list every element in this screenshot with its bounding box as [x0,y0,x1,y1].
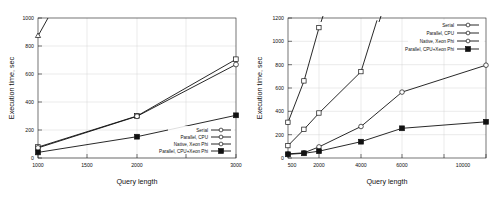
legend-marker-parallel-cpu-xeon-phi [466,47,471,52]
left-series-serial [35,18,48,38]
y-tick-label: 0 [281,155,284,161]
right-series-parallel-cpu [286,16,381,148]
right-y-tick-labels: 0 200 400 600 800 1000 1200 [272,15,284,161]
x-tick-label: 4000 [355,162,367,168]
legend-marker-parallel-cpu [466,31,470,35]
y-tick-label: 1000 [272,38,284,44]
y-axis-title: Execution time, sec [255,56,264,119]
legend-label-parallel-cpu: Parallel, CPU [426,31,454,36]
legend-label-native-xeon-phi: Native, Xeon Phi [174,142,208,147]
x-tick-label: 2000 [313,162,325,168]
y-tick-label: 200 [275,132,284,138]
legend-label-native-xeon-phi: Native, Xeon Phi [420,39,454,44]
x-tick-label: 3000 [230,162,242,168]
right-series-serial [286,16,323,125]
x-axis-title: Query length [366,177,407,186]
right-series-native-xeon-phi [286,63,489,156]
right-legend: Serial Parallel, CPU Native, Xeon Phi Pa… [405,20,484,52]
y-tick-label: 200 [25,127,34,133]
x-tick-label: 1500 [81,162,93,168]
y-axis-title: Execution time, sec [7,56,16,119]
right-x-tick-labels: 500 2000 4000 6000 10000 [288,162,471,168]
left-x-tick-labels: 1000 1500 2000 3000 [32,162,242,168]
y-tick-label: 400 [25,99,34,105]
left-y-tick-labels: 0 200 400 600 800 1000 [22,15,34,161]
legend-label-parallel-cpu-xeon-phi: Parallel, CPU+Xeon Phi [159,149,208,154]
left-plot-area: 0 200 400 600 800 1000 1000 1 [7,15,242,186]
x-tick-label: 6000 [396,162,408,168]
chart-panel-right: 0 200 400 600 800 1000 1200 [248,0,496,200]
legend-marker-serial [466,23,470,27]
y-tick-label: 0 [31,155,34,161]
x-tick-label: 2000 [131,162,143,168]
left-chart-svg: 0 200 400 600 800 1000 1000 1 [0,0,248,200]
right-series-parallel-cpu-xeon-phi [286,119,489,156]
y-tick-label: 800 [275,62,284,68]
right-chart-svg: 0 200 400 600 800 1000 1200 [248,0,496,200]
legend-marker-native-xeon-phi [466,39,470,43]
legend-label-parallel-cpu-xeon-phi: Parallel, CPU+Xeon Phi [405,47,454,52]
y-tick-label: 1200 [272,15,284,21]
legend-marker-parallel-cpu-xeon-phi [219,149,224,154]
legend-marker-parallel-cpu [219,135,223,139]
x-tick-label: 500 [288,162,297,168]
legend-label-serial: Serial [196,128,208,133]
left-y-ticks [38,18,42,158]
legend-label-serial: Serial [442,23,454,28]
x-axis-title: Query length [116,177,157,186]
right-y-ticks [288,18,292,158]
x-tick-label: 10000 [456,162,471,168]
legend-marker-serial [219,128,223,132]
legend-label-parallel-cpu: Parallel, CPU [180,135,208,140]
left-legend: Serial Parallel, CPU Native, Xeon Phi Pa… [159,126,234,154]
left-x-ticks [38,154,236,158]
figure-container: 0 200 400 600 800 1000 1000 1 [0,0,496,200]
y-tick-label: 1000 [22,15,34,21]
legend-marker-native-xeon-phi [219,142,223,146]
right-plot-area: 0 200 400 600 800 1000 1200 [255,15,488,186]
right-x-ticks [288,154,486,158]
y-tick-label: 800 [25,43,34,49]
chart-panel-left: 0 200 400 600 800 1000 1000 1 [0,0,248,200]
y-tick-label: 600 [275,85,284,91]
y-tick-label: 400 [275,108,284,114]
y-tick-label: 600 [25,71,34,77]
x-tick-label: 1000 [32,162,44,168]
